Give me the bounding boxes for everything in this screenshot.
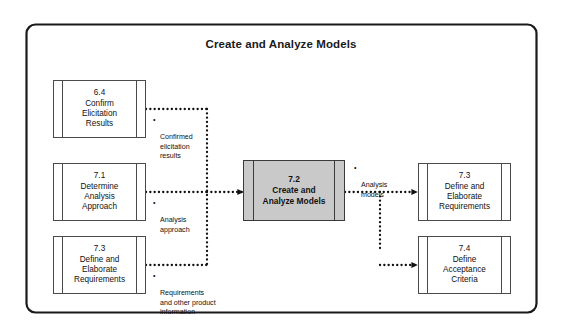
flow-note-text: Analysis models	[354, 181, 406, 199]
process-box-label: 7.3 Define and Elaborate Requirements	[64, 244, 135, 286]
bullet-icon: •	[153, 199, 155, 208]
process-box-7-3-output[interactable]: 7.3 Define and Elaborate Requirements	[418, 163, 511, 221]
flow-note-text: Confirmed elicitation results	[153, 133, 205, 161]
process-bar-left-icon	[62, 81, 63, 137]
bullet-icon: •	[153, 272, 155, 281]
diagram-canvas: Create and Analyze Models 6.4 Confirm El…	[0, 0, 562, 332]
flow-note-analysis-approach: • Analysis approach	[153, 198, 205, 244]
process-bar-right-icon	[501, 237, 502, 293]
process-box-label: 6.4 Confirm Elicitation Results	[72, 88, 127, 130]
process-box-label: 7.1 Determine Analysis Approach	[71, 171, 129, 213]
process-bar-left-icon	[427, 237, 428, 293]
process-bar-left-icon	[62, 237, 63, 293]
diagram-title: Create and Analyze Models	[0, 38, 562, 50]
process-box-label: 7.3 Define and Elaborate Requirements	[429, 171, 500, 213]
process-bar-left-icon	[62, 164, 63, 220]
process-bar-right-icon	[501, 164, 502, 220]
process-bar-right-icon	[136, 164, 137, 220]
bullet-icon: •	[153, 116, 155, 125]
flow-note-text: Requirements and other product informati…	[153, 289, 227, 317]
process-box-label: 7.2 Create and Analyze Models	[253, 174, 336, 207]
process-box-7-1[interactable]: 7.1 Determine Analysis Approach	[53, 163, 146, 221]
flow-note-text: Analysis approach	[153, 216, 205, 234]
process-box-7-4[interactable]: 7.4 Define Acceptance Criteria	[418, 236, 511, 294]
process-box-6-4[interactable]: 6.4 Confirm Elicitation Results	[53, 80, 146, 138]
flow-note-analysis-models: • Analysis models	[354, 163, 406, 209]
process-box-7-3-input[interactable]: 7.3 Define and Elaborate Requirements	[53, 236, 146, 294]
process-bar-right-icon	[136, 237, 137, 293]
flow-note-confirmed-elicitation-results: • Confirmed elicitation results	[153, 115, 205, 170]
process-bar-left-icon	[427, 164, 428, 220]
process-box-7-2-center[interactable]: 7.2 Create and Analyze Models	[243, 160, 345, 221]
process-box-label: 7.4 Define Acceptance Criteria	[433, 244, 496, 286]
flow-note-requirements-and-other-product-information: • Requirements and other product informa…	[153, 271, 227, 326]
bullet-icon: •	[354, 164, 356, 173]
process-bar-right-icon	[136, 81, 137, 137]
